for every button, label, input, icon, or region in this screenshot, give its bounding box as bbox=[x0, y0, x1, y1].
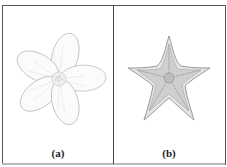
starfish-icon bbox=[114, 6, 224, 163]
caption-a: (a) bbox=[3, 147, 113, 159]
panel-a: (a) bbox=[3, 6, 113, 163]
caption-b: (b) bbox=[114, 147, 224, 159]
panel-b: (b) bbox=[114, 6, 224, 163]
flower-icon bbox=[3, 6, 113, 163]
